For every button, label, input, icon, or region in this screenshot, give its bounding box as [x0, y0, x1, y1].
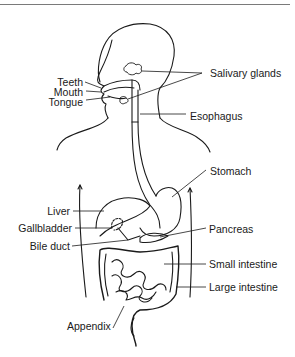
- salivary-gland-upper: [124, 63, 142, 75]
- salivary-gland-lower: [120, 97, 128, 104]
- leader-stomach: [172, 170, 206, 197]
- shoulder-left: [57, 118, 108, 150]
- pancreas-shape: [140, 233, 168, 242]
- label-stomach: Stomach: [210, 165, 251, 177]
- leader-pancreas: [160, 228, 206, 237]
- palate: [104, 80, 140, 90]
- label-tongue: Tongue: [40, 96, 83, 108]
- label-large-intestine: Large intestine: [209, 281, 278, 293]
- head-outline: [98, 24, 174, 118]
- label-gallbladder: Gallbladder: [4, 222, 72, 234]
- leader-mouth: [86, 91, 101, 92]
- label-esophagus: Esophagus: [190, 110, 243, 122]
- shoulder-right: [160, 118, 210, 152]
- leader-appendix: [113, 306, 124, 328]
- esophagus-tube: [132, 80, 160, 228]
- label-salivary-glands: Salivary glands: [210, 67, 281, 79]
- bile-duct-shape: [118, 228, 140, 240]
- label-pancreas: Pancreas: [209, 223, 253, 235]
- label-appendix: Appendix: [67, 320, 111, 332]
- torso-right: [190, 188, 192, 297]
- label-small-intestine: Small intestine: [209, 258, 277, 270]
- small-intestine-shape: [112, 260, 166, 302]
- leader-bile-duct: [72, 240, 128, 246]
- digestive-system-illustration: [0, 0, 295, 357]
- label-bile-duct: Bile duct: [4, 240, 70, 252]
- torso-left: [79, 185, 86, 297]
- leader-tongue: [86, 97, 110, 100]
- label-liver: Liver: [20, 205, 70, 217]
- large-intestine-shape: [99, 246, 179, 346]
- leader-salivary-1: [142, 71, 202, 73]
